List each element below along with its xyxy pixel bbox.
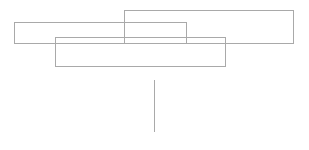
diagram-canvas <box>0 0 309 150</box>
diagram-svg <box>0 0 309 150</box>
